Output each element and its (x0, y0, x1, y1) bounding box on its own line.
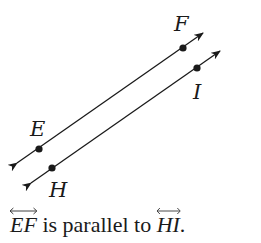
label-h: H (48, 178, 68, 202)
point-f (179, 44, 186, 51)
point-i (193, 64, 200, 71)
line-notation-hi: HI (157, 212, 180, 238)
label-i: I (192, 80, 202, 104)
caption-period: . (180, 212, 186, 237)
double-arrow-icon (157, 207, 180, 215)
double-arrow-icon (10, 207, 37, 215)
point-e (35, 145, 42, 152)
line-notation-ef: EF (10, 212, 37, 238)
label-e: E (29, 117, 45, 141)
parallel-lines-diagram: E F H I (0, 0, 261, 243)
point-h (48, 164, 55, 171)
caption-line-hi: HI (157, 212, 180, 237)
label-f: F (173, 12, 190, 36)
caption: EF is parallel to HI . (10, 212, 185, 238)
caption-line-ef: EF (10, 212, 37, 237)
line-ef (17, 33, 203, 163)
caption-text: is parallel to (37, 212, 157, 237)
line-hi (31, 51, 220, 183)
